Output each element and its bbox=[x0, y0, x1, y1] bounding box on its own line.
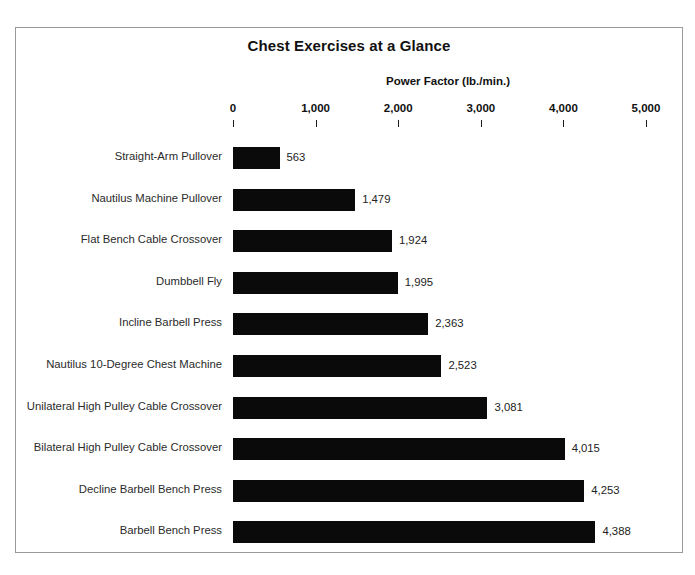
bar-row: Dumbbell Fly1,995 bbox=[16, 272, 684, 294]
bar-value-label: 4,015 bbox=[572, 442, 600, 454]
x-axis-tick-mark bbox=[316, 120, 317, 127]
bar bbox=[233, 230, 392, 252]
bar bbox=[233, 313, 428, 335]
x-axis-tick-label: 4,000 bbox=[523, 102, 603, 114]
x-axis-tick-mark bbox=[481, 120, 482, 127]
bar-category-label: Decline Barbell Bench Press bbox=[16, 483, 222, 495]
x-axis-tick-mark bbox=[398, 120, 399, 127]
bar-row: Flat Bench Cable Crossover1,924 bbox=[16, 230, 684, 252]
bar-category-label: Incline Barbell Press bbox=[16, 316, 222, 328]
x-axis-tick-mark bbox=[646, 120, 647, 127]
bar-category-label: Dumbbell Fly bbox=[16, 275, 222, 287]
bar bbox=[233, 438, 565, 460]
bar-value-label: 2,363 bbox=[435, 317, 463, 329]
bar-category-label: Bilateral High Pulley Cable Crossover bbox=[16, 441, 222, 453]
bar bbox=[233, 521, 595, 543]
bar-row: Decline Barbell Bench Press4,253 bbox=[16, 480, 684, 502]
bar-category-label: Straight-Arm Pullover bbox=[16, 150, 222, 162]
bar-row: Barbell Bench Press4,388 bbox=[16, 521, 684, 543]
bar-row: Nautilus Machine Pullover1,479 bbox=[16, 189, 684, 211]
plot-area: 01,0002,0003,0004,0005,000Straight-Arm P… bbox=[16, 28, 684, 554]
bar bbox=[233, 355, 441, 377]
bar-category-label: Barbell Bench Press bbox=[16, 524, 222, 536]
x-axis-tick-label: 1,000 bbox=[276, 102, 356, 114]
bar-value-label: 3,081 bbox=[494, 401, 522, 413]
bar-category-label: Unilateral High Pulley Cable Crossover bbox=[16, 400, 222, 412]
x-axis-tick-label: 3,000 bbox=[441, 102, 521, 114]
x-axis-tick-mark bbox=[563, 120, 564, 127]
x-axis-tick-label: 5,000 bbox=[606, 102, 686, 114]
bar-category-label: Nautilus Machine Pullover bbox=[16, 192, 222, 204]
bar-row: Nautilus 10-Degree Chest Machine2,523 bbox=[16, 355, 684, 377]
bar-row: Straight-Arm Pullover563 bbox=[16, 147, 684, 169]
bar-value-label: 1,479 bbox=[362, 193, 390, 205]
bar bbox=[233, 189, 355, 211]
bar-value-label: 563 bbox=[287, 151, 306, 163]
bar bbox=[233, 397, 487, 419]
bar-value-label: 1,924 bbox=[399, 234, 427, 246]
bar-category-label: Nautilus 10-Degree Chest Machine bbox=[16, 358, 222, 370]
x-axis-tick-label: 2,000 bbox=[358, 102, 438, 114]
bar-row: Incline Barbell Press2,363 bbox=[16, 313, 684, 335]
x-axis-tick-mark bbox=[233, 120, 234, 127]
bar-value-label: 4,253 bbox=[591, 484, 619, 496]
bar-value-label: 2,523 bbox=[448, 359, 476, 371]
x-axis-tick-label: 0 bbox=[193, 102, 273, 114]
bar-value-label: 1,995 bbox=[405, 276, 433, 288]
bar-row: Bilateral High Pulley Cable Crossover4,0… bbox=[16, 438, 684, 460]
bar bbox=[233, 480, 584, 502]
bar-row: Unilateral High Pulley Cable Crossover3,… bbox=[16, 397, 684, 419]
chart-frame: Chest Exercises at a Glance Power Factor… bbox=[15, 27, 683, 553]
bar-category-label: Flat Bench Cable Crossover bbox=[16, 233, 222, 245]
bar bbox=[233, 272, 398, 294]
bar bbox=[233, 147, 280, 169]
bar-value-label: 4,388 bbox=[602, 525, 630, 537]
